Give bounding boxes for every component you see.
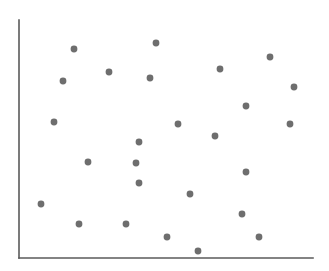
data-point: [164, 234, 171, 241]
data-point: [106, 69, 113, 76]
data-point: [38, 201, 45, 208]
data-point: [51, 119, 58, 126]
data-point: [212, 133, 219, 140]
plot-canvas: [0, 0, 329, 271]
data-point: [291, 84, 298, 91]
data-point: [217, 66, 224, 73]
data-point: [147, 75, 154, 82]
data-point: [60, 78, 67, 85]
data-point: [187, 191, 194, 198]
data-point: [243, 169, 250, 176]
data-point: [136, 180, 143, 187]
data-point: [239, 211, 246, 218]
data-point: [71, 46, 78, 53]
data-point: [76, 221, 83, 228]
data-point: [123, 221, 130, 228]
data-point: [256, 234, 263, 241]
data-point: [243, 103, 250, 110]
data-point: [267, 54, 274, 61]
scatter-plot-figure: [0, 0, 329, 271]
data-point: [85, 159, 92, 166]
data-point: [153, 40, 160, 47]
plot-background: [0, 0, 329, 271]
data-point: [133, 160, 140, 167]
data-point: [136, 139, 143, 146]
data-point: [195, 248, 202, 255]
data-point: [287, 121, 294, 128]
data-point: [175, 121, 182, 128]
